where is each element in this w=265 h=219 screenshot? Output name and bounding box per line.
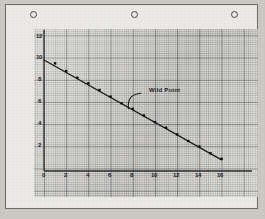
data-point [198,145,200,147]
data-point [132,108,134,110]
data-point [143,114,145,116]
data-point [87,82,89,84]
data-point [98,89,100,91]
data-point [76,77,78,79]
graph-paper-sheet: 12 10 8 6 4 2 0 2 4 6 8 10 12 14 16 Wild… [5,4,258,209]
data-point [109,95,111,97]
data-point [54,62,56,64]
data-point [65,70,67,72]
plot-overlay [6,5,259,210]
data-point [220,158,222,160]
data-point [121,102,123,104]
data-point [209,152,211,154]
data-point [154,121,156,123]
data-point [165,127,167,129]
data-point [187,140,189,142]
data-point-group [54,62,223,160]
scanned-page: 12 10 8 6 4 2 0 2 4 6 8 10 12 14 16 Wild… [0,0,265,219]
data-point [176,133,178,135]
wild-point-leader-line [128,93,141,109]
